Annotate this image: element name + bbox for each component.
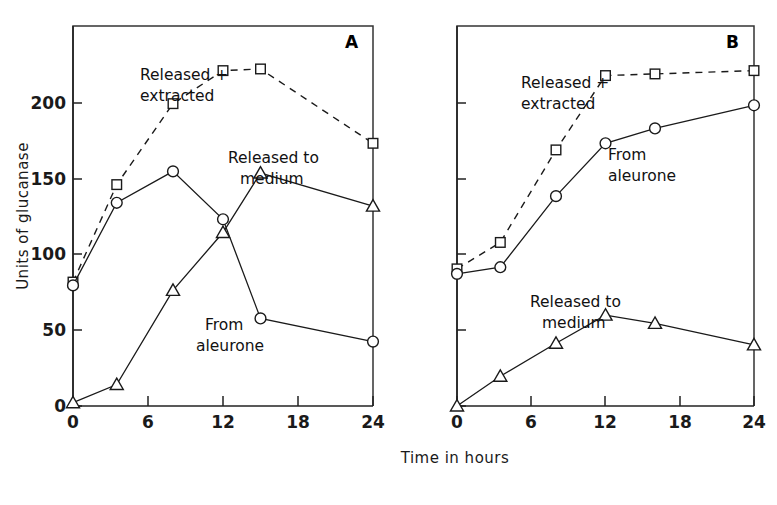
panel-a-ytick-100: 100 (31, 244, 67, 264)
panel-b-xtick-18: 18 (668, 412, 692, 432)
annot-b-released-medium-2: medium (542, 314, 606, 332)
data-point-square (551, 145, 561, 155)
series-line (73, 69, 373, 282)
series-released-extracted (452, 66, 759, 274)
panel-b-annotations: Released + extracted From aleurone Relea… (521, 74, 676, 332)
data-point-circle (368, 336, 379, 347)
data-point-square (368, 139, 378, 149)
y-axis-title: Units of glucanase (14, 142, 32, 290)
x-axis-title: Time in hours (400, 449, 510, 467)
annot-a-released-extracted-1: Released + (140, 66, 228, 84)
data-point-circle (218, 214, 229, 225)
data-point-square (112, 180, 122, 190)
panel-b-xtick-24: 24 (742, 412, 766, 432)
chart-svg: 0 50 100 150 200 0 6 12 18 24 A (0, 0, 777, 505)
data-point-square (256, 64, 266, 74)
data-point-circle (495, 262, 506, 273)
data-point-circle (650, 123, 661, 134)
annot-b-released-extracted-1: Released + (521, 74, 609, 92)
figure-container: 0 50 100 150 200 0 6 12 18 24 A (0, 0, 777, 505)
panel-a-xtick-12: 12 (211, 412, 235, 432)
annot-a-released-medium-1: Released to (228, 149, 319, 167)
data-point-triangle (66, 396, 79, 407)
panel-b-xtick-0: 0 (451, 412, 463, 432)
panel-a-xtick-6: 6 (142, 412, 154, 432)
data-point-square (650, 69, 660, 79)
annot-a-released-extracted-2: extracted (140, 87, 214, 105)
panel-a-xtick-24: 24 (361, 412, 385, 432)
data-point-triangle (549, 337, 562, 348)
annot-b-from-aleurone-1: From (608, 146, 646, 164)
data-point-circle (255, 313, 266, 324)
data-point-circle (68, 280, 79, 291)
data-point-square (496, 238, 506, 248)
annot-a-released-medium-2: medium (240, 170, 304, 188)
annot-b-from-aleurone-2: aleurone (608, 167, 676, 185)
panel-a-xtick-0: 0 (67, 412, 79, 432)
panel-a-xtick-18: 18 (286, 412, 310, 432)
data-point-triangle (110, 378, 123, 389)
series-from-aleurone (452, 100, 760, 279)
panel-a-ytick-150: 150 (31, 169, 67, 189)
panel-b-letter: B (726, 32, 739, 52)
data-point-circle (452, 268, 463, 279)
data-point-square (749, 66, 759, 76)
panel-a-ytick-200: 200 (31, 93, 67, 113)
panel-b-xtick-12: 12 (593, 412, 617, 432)
panel-b-series (450, 66, 760, 411)
data-point-triangle (494, 370, 507, 381)
annot-b-released-extracted-2: extracted (521, 95, 595, 113)
annot-b-released-medium-1: Released to (530, 293, 621, 311)
panel-a-y-ticks (73, 103, 82, 406)
panel-b-x-ticks (457, 396, 754, 406)
data-point-circle (749, 100, 760, 111)
series-line (457, 105, 754, 274)
panel-a-series (66, 64, 379, 408)
panel-a-letter: A (345, 32, 359, 52)
panel-a-ytick-0: 0 (54, 396, 66, 416)
panel-a-annotations: Released + extracted Released to medium … (140, 66, 319, 355)
data-point-circle (111, 197, 122, 208)
panel-b-y-ticks (457, 103, 466, 406)
annot-a-from-aleurone-2: aleurone (196, 337, 264, 355)
panel-a-x-ticks (73, 396, 373, 406)
annot-a-from-aleurone-1: From (205, 316, 243, 334)
panel-a-ytick-50: 50 (42, 320, 66, 340)
series-released-extracted (68, 64, 378, 287)
panel-b-xtick-6: 6 (525, 412, 537, 432)
data-point-circle (551, 191, 562, 202)
data-point-circle (168, 166, 179, 177)
